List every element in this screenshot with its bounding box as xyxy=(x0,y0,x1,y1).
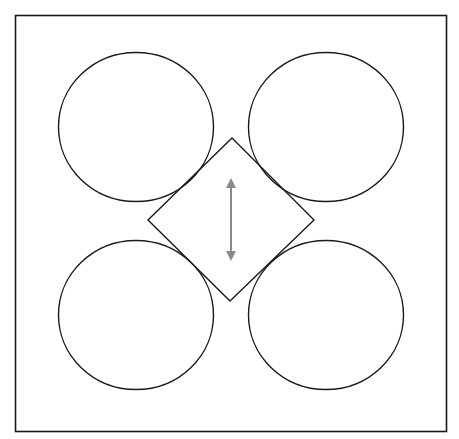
arrowhead-down-icon xyxy=(226,251,236,261)
circle-bottom-left xyxy=(59,241,214,390)
arrowhead-up-icon xyxy=(226,178,236,188)
diagram-canvas xyxy=(0,0,459,439)
circle-bottom-right xyxy=(249,241,404,390)
circle-top-right xyxy=(249,53,404,202)
double-headed-arrow-icon xyxy=(226,178,236,261)
